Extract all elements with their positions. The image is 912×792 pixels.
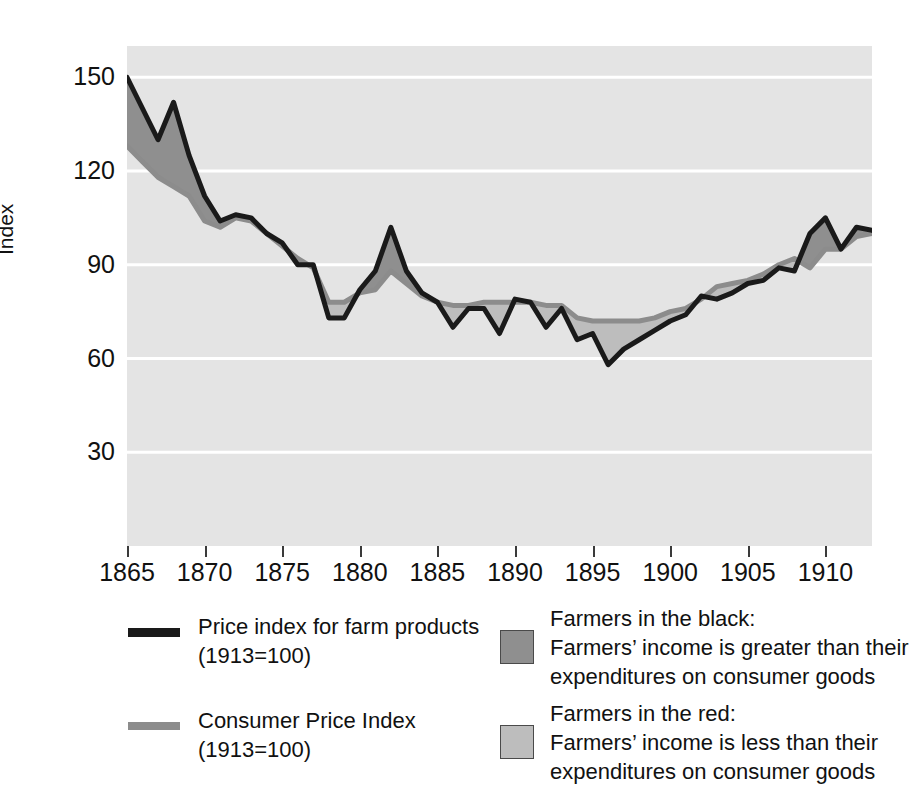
legend-series-column: Price index for farm products (1913=100)…: [128, 612, 508, 792]
legend-item-cpi-line: Consumer Price Index (1913=100): [128, 706, 508, 764]
y-tick-label: 90: [15, 252, 115, 277]
x-tick-label: 1900: [642, 559, 698, 586]
chart-legend: Price index for farm products (1913=100)…: [0, 612, 912, 792]
black-band-title: Farmers in the black:: [550, 604, 909, 633]
red-band-line2: expenditures on consumer goods: [550, 757, 878, 786]
black-band-line2: expenditures on consumer goods: [550, 662, 909, 691]
x-tick-label: 1870: [177, 559, 233, 586]
x-tick-label: 1905: [720, 559, 776, 586]
x-axis: 1865187018751880188518901895190019051910: [127, 546, 872, 596]
cpi-line-swatch-icon: [128, 722, 180, 730]
y-tick-label: 150: [15, 64, 115, 89]
red-band-line1: Farmers’ income is less than their: [550, 728, 878, 757]
x-tick-label: 1910: [798, 559, 854, 586]
x-tick-label: 1890: [487, 559, 543, 586]
x-tick-mark: [205, 546, 207, 557]
black-band-swatch-icon: [500, 630, 534, 664]
x-tick-mark: [670, 546, 672, 557]
y-axis-title: Index: [0, 204, 18, 255]
legend-item-farm-line: Price index for farm products (1913=100): [128, 612, 508, 670]
red-band-swatch-icon: [500, 725, 534, 759]
legend-item-label: Price index for farm products (1913=100): [198, 612, 479, 670]
legend-item-farmers-in-the-red: Farmers in the red: Farmers’ income is l…: [500, 699, 912, 786]
legend-item-label: Farmers in the red: Farmers’ income is l…: [550, 699, 878, 786]
x-tick-mark: [282, 546, 284, 557]
farm-line-label: Price index for farm products: [198, 614, 479, 639]
plot-area: [127, 46, 872, 546]
legend-item-label: Consumer Price Index (1913=100): [198, 706, 416, 764]
x-tick-mark: [360, 546, 362, 557]
x-tick-label: 1880: [332, 559, 388, 586]
legend-item-label: Farmers in the black: Farmers’ income is…: [550, 604, 909, 691]
black-band-line1: Farmers’ income is greater than their: [550, 633, 909, 662]
y-tick-label: 60: [15, 346, 115, 371]
x-tick-mark: [593, 546, 595, 557]
legend-item-farmers-in-the-black: Farmers in the black: Farmers’ income is…: [500, 604, 912, 691]
x-tick-mark: [748, 546, 750, 557]
chart-canvas: [127, 46, 872, 546]
red-band-title: Farmers in the red:: [550, 699, 878, 728]
x-tick-label: 1885: [410, 559, 466, 586]
cpi-line-label: Consumer Price Index: [198, 708, 416, 733]
y-tick-label: 30: [15, 439, 115, 464]
chart-figure: Index 306090120150 186518701875188018851…: [0, 0, 912, 792]
x-tick-mark: [437, 546, 439, 557]
cpi-line-sublabel: (1913=100): [198, 735, 416, 764]
x-tick-mark: [825, 546, 827, 557]
legend-bands-column: Farmers in the black: Farmers’ income is…: [500, 604, 912, 792]
x-tick-mark: [127, 546, 129, 557]
farm-line-sublabel: (1913=100): [198, 641, 479, 670]
x-tick-label: 1895: [565, 559, 621, 586]
y-tick-label: 120: [15, 158, 115, 183]
x-tick-label: 1865: [99, 559, 155, 586]
x-tick-mark: [515, 546, 517, 557]
x-tick-label: 1875: [254, 559, 310, 586]
farm-line-swatch-icon: [128, 628, 180, 637]
